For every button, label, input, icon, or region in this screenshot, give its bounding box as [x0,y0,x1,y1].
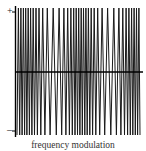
plus-label: + [7,6,13,16]
figure-caption: frequency modulation [0,140,146,150]
minus-label: – [7,125,12,135]
frequency-modulation-diagram [0,0,146,151]
